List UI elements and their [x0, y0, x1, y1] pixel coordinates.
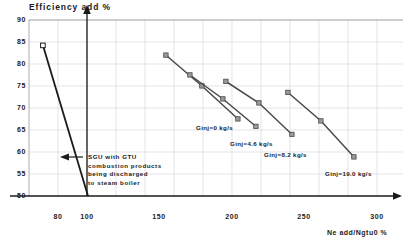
chart-figure: Efficiency add % Ne add/Ngtu0 % 90 85 80… — [0, 0, 413, 242]
annotation-line-1: SGU with GTU — [88, 153, 162, 162]
series-ginj-190-line — [288, 93, 354, 158]
annotation-line-4: to steam boiler — [88, 179, 162, 188]
series-label-ginj-190: Ginj=19.0 kg/s — [325, 170, 372, 177]
x-axis-arrow — [393, 192, 402, 200]
series-sgu-line — [43, 46, 88, 197]
series-label-ginj-0: Ginj=0 kg/s — [196, 124, 233, 131]
annotation-arrowhead — [60, 153, 69, 160]
grid-horizontal — [29, 20, 403, 174]
annotation-text: SGU with GTU combustion products being d… — [88, 153, 162, 187]
y-axis-arrow — [83, 5, 91, 14]
annotation-line-3: being discharged — [88, 170, 162, 179]
series-label-ginj-82: Ginj=8.2 kg/s — [264, 151, 307, 158]
series-label-ginj-46: Ginj=4.6 kg/s — [230, 140, 273, 147]
annotation-line-2: combustion products — [88, 162, 162, 171]
data-marker — [41, 43, 46, 48]
plot-area — [0, 0, 413, 242]
